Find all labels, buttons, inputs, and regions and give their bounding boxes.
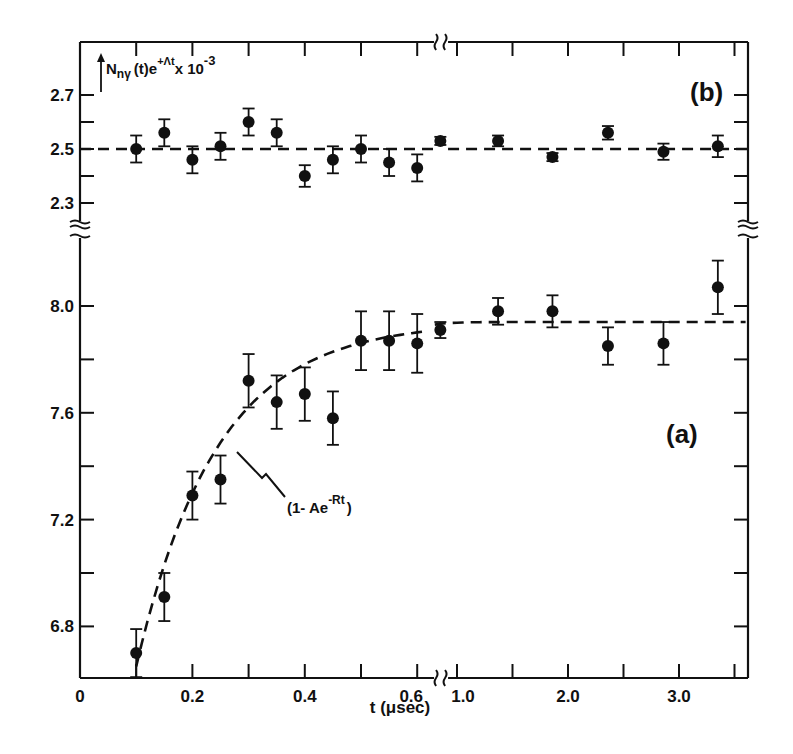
y-tick-label: 7.6 (50, 404, 74, 423)
plot-frame (70, 34, 758, 686)
data-point (130, 629, 142, 677)
y-tick-label: 2.5 (50, 140, 74, 159)
svg-text:(1- Ae-Rt): (1- Ae-Rt) (287, 493, 352, 516)
fit-curve-a (136, 331, 428, 666)
fit-curve-a (435, 322, 746, 325)
data-point (411, 314, 423, 373)
panel-b-data (80, 109, 748, 187)
y-tick-label: 2.7 (50, 86, 74, 105)
data-point (271, 119, 283, 146)
data-point (657, 322, 669, 365)
y-axis-label: Nnγ(t)e+Λtx 10-3 (97, 53, 215, 92)
data-point (712, 261, 724, 314)
data-point (271, 375, 283, 428)
fit-label: (1- Ae (287, 499, 328, 516)
data-point (712, 136, 724, 158)
panel-a-data (130, 261, 745, 678)
data-point (492, 135, 504, 147)
data-point (492, 298, 504, 325)
data-point (411, 154, 423, 181)
fit-annotation: (1- Ae-Rt) (237, 452, 352, 516)
data-point (130, 136, 142, 163)
data-point (355, 311, 367, 370)
data-point (602, 126, 614, 140)
x-tick-label: 3.0 (667, 687, 691, 706)
x-tick-label: 0.4 (293, 687, 317, 706)
data-point (243, 109, 255, 136)
data-point (355, 136, 367, 163)
data-point (383, 311, 395, 370)
chart-canvas: 00.20.40.61.02.03.02.32.52.76.87.27.68.0… (0, 0, 793, 754)
data-point (327, 391, 339, 444)
panel-b-label: (b) (690, 77, 723, 107)
figure: 00.20.40.61.02.03.02.32.52.76.87.27.68.0… (0, 0, 793, 754)
x-tick-label: 0 (75, 687, 84, 706)
y-label-exp: -3 (204, 53, 216, 68)
data-point (299, 165, 311, 187)
svg-text:Nnγ(t)e+Λtx 10-3: Nnγ(t)e+Λtx 10-3 (106, 53, 215, 81)
data-point (299, 367, 311, 420)
data-point (383, 149, 395, 176)
data-point (602, 327, 614, 364)
arrow-head-icon (97, 53, 105, 62)
y-label-n: N (106, 60, 117, 77)
y-tick-label: 6.8 (50, 617, 74, 636)
y-tick-label: 8.0 (50, 297, 74, 316)
axis-ticks (80, 42, 748, 678)
fit-label-close: ) (347, 499, 352, 516)
y-label-tail: x 10 (175, 60, 204, 77)
data-point (215, 133, 227, 160)
data-point (158, 119, 170, 146)
data-point (158, 573, 170, 621)
x-tick-label: 2.0 (556, 687, 580, 706)
tick-labels: 00.20.40.61.02.03.02.32.52.76.87.27.68.0 (50, 86, 690, 706)
y-label-sub: nγ (117, 67, 131, 81)
panel-a-label: (a) (666, 419, 698, 449)
x-tick-label: 1.0 (451, 687, 475, 706)
data-point (215, 456, 227, 504)
y-label-mid: (t)e (134, 60, 157, 77)
x-tick-label: 0.2 (181, 687, 205, 706)
data-point (186, 146, 198, 173)
data-point (327, 146, 339, 173)
x-axis-title: t (μsec) (370, 698, 430, 717)
data-point (434, 135, 446, 147)
y-label-sup: +Λt (157, 55, 175, 67)
y-tick-label: 2.3 (50, 194, 74, 213)
leader-line (237, 452, 285, 497)
fit-label-sup: -Rt (328, 493, 345, 507)
data-point (186, 472, 198, 520)
data-point (243, 354, 255, 407)
y-tick-label: 7.2 (50, 511, 74, 530)
data-point (657, 144, 669, 160)
data-point (546, 151, 558, 163)
